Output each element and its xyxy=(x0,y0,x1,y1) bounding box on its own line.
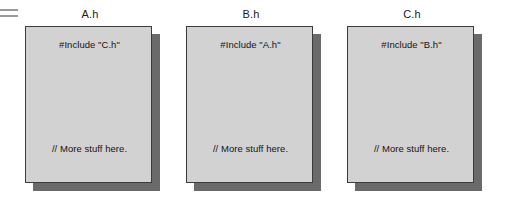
include-statement-a: #Include "C.h" xyxy=(26,39,153,51)
include-statement-b: #Include "A.h" xyxy=(187,39,314,51)
file-card-c: #Include "B.h" // More stuff here. xyxy=(347,26,474,183)
equals-marker-rule-top xyxy=(0,9,18,11)
file-title-a: A.h xyxy=(20,8,160,21)
file-title-b: B.h xyxy=(181,8,321,21)
comment-line-c: // More stuff here. xyxy=(348,143,475,155)
file-group-c: C.h #Include "B.h" // More stuff here. xyxy=(342,0,482,200)
file-card-b: #Include "A.h" // More stuff here. xyxy=(186,26,313,183)
file-group-a: A.h #Include "C.h" // More stuff here. xyxy=(20,0,160,200)
include-cycle-diagram: A.h #Include "C.h" // More stuff here. B… xyxy=(0,0,507,210)
comment-line-b: // More stuff here. xyxy=(187,143,314,155)
file-title-c: C.h xyxy=(342,8,482,21)
comment-line-a: // More stuff here. xyxy=(26,143,153,155)
file-card-a: #Include "C.h" // More stuff here. xyxy=(25,26,152,183)
include-statement-c: #Include "B.h" xyxy=(348,39,475,51)
equals-marker-rule-bottom xyxy=(0,15,18,17)
equals-marker-icon xyxy=(0,9,18,18)
file-group-b: B.h #Include "A.h" // More stuff here. xyxy=(181,0,321,200)
